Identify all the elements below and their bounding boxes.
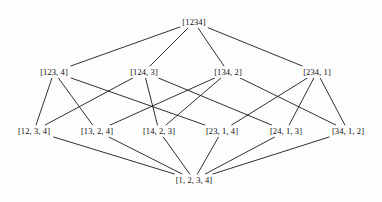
lattice-node-n123_4: [123, 4] [39, 67, 70, 78]
lattice-node-n13_2_4: [13, 2, 4] [79, 126, 114, 137]
node-layer: [1234][123, 4][124, 3][134, 2][234, 1][1… [0, 0, 382, 202]
lattice-node-n1_2_3_4: [1, 2, 3, 4] [174, 175, 214, 186]
hasse-diagram: [1234][123, 4][124, 3][134, 2][234, 1][1… [0, 0, 382, 202]
lattice-node-n24_1_3: [24, 1, 3] [268, 126, 303, 137]
lattice-node-n134_2: [134, 2] [213, 67, 244, 78]
lattice-node-n124_3: [124, 3] [129, 67, 160, 78]
lattice-node-n12_3_4: [12, 3, 4] [16, 126, 51, 137]
lattice-node-n14_2_3: [14, 2, 3] [141, 126, 176, 137]
lattice-node-n23_1_4: [23, 1, 4] [204, 126, 239, 137]
lattice-node-n34_1_2: [34, 1, 2] [330, 126, 365, 137]
lattice-node-n1234: [1234] [181, 17, 207, 28]
lattice-node-n234_1: [234, 1] [302, 67, 333, 78]
